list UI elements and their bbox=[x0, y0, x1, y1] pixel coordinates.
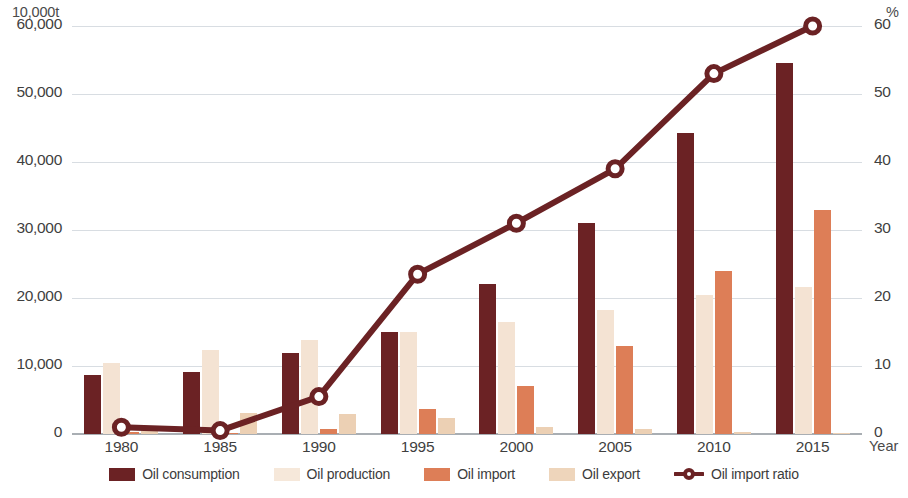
bar-oil-production-1985 bbox=[202, 350, 219, 434]
right-axis-tick-label: 30 bbox=[874, 219, 891, 237]
bar-oil-import-2010 bbox=[715, 271, 732, 434]
ratio-marker-2005 bbox=[608, 162, 622, 176]
plot-area: 010,00020,00030,00040,00050,00060,000 01… bbox=[72, 26, 862, 434]
bar-oil-export-2010 bbox=[734, 432, 751, 434]
bar-oil-export-2005 bbox=[635, 429, 652, 434]
legend-label: Oil production bbox=[307, 466, 391, 482]
legend-swatch-production-icon bbox=[274, 468, 300, 481]
right-axis-tick-label: 10 bbox=[874, 355, 891, 373]
bar-oil-export-1980 bbox=[141, 426, 158, 434]
gridline bbox=[72, 26, 862, 27]
bar-oil-consumption-2010 bbox=[677, 133, 694, 434]
left-axis-tick-label: 20,000 bbox=[16, 287, 62, 305]
bar-oil-import-1990 bbox=[320, 429, 337, 434]
right-axis-tick-label: 20 bbox=[874, 287, 891, 305]
legend-label: Oil import bbox=[457, 466, 515, 482]
bar-oil-consumption-1985 bbox=[183, 372, 200, 434]
x-axis-tick-label: 1985 bbox=[203, 438, 237, 456]
legend-swatch-export-icon bbox=[549, 468, 575, 481]
legend-label: Oil export bbox=[582, 466, 640, 482]
left-axis-tick-label: 40,000 bbox=[16, 151, 62, 169]
bar-oil-import-1995 bbox=[419, 409, 436, 434]
bar-oil-import-2015 bbox=[814, 210, 831, 434]
bar-oil-consumption-2015 bbox=[776, 63, 793, 434]
left-axis-tick-label: 10,000 bbox=[16, 355, 62, 373]
legend-item-ratio[interactable]: Oil import ratio bbox=[674, 466, 799, 482]
bar-oil-import-1985 bbox=[221, 433, 238, 435]
bar-oil-consumption-2000 bbox=[479, 284, 496, 434]
legend-item-production[interactable]: Oil production bbox=[274, 466, 391, 482]
left-axis-tick-label: 0 bbox=[54, 423, 62, 441]
x-axis-tick-label: 1995 bbox=[401, 438, 435, 456]
bar-oil-production-1995 bbox=[400, 332, 417, 434]
bar-oil-import-1980 bbox=[122, 432, 139, 434]
legend-item-consumption[interactable]: Oil consumption bbox=[109, 466, 239, 482]
left-axis-tick-label: 60,000 bbox=[16, 15, 62, 33]
bar-oil-consumption-2005 bbox=[578, 223, 595, 434]
gridline bbox=[72, 298, 862, 299]
legend-swatch-consumption-icon bbox=[109, 468, 135, 481]
legend-label: Oil import ratio bbox=[711, 466, 799, 482]
gridline bbox=[72, 94, 862, 95]
bar-oil-production-2005 bbox=[597, 310, 614, 434]
x-axis-tick-label: 1980 bbox=[105, 438, 139, 456]
legend-line-marker-icon bbox=[674, 467, 704, 481]
x-axis-tick-label: 2015 bbox=[796, 438, 830, 456]
bar-oil-consumption-1990 bbox=[282, 353, 299, 434]
bar-oil-production-2015 bbox=[795, 287, 812, 434]
gridline bbox=[72, 230, 862, 231]
right-axis-tick-label: 60 bbox=[874, 15, 891, 33]
bar-oil-export-1990 bbox=[339, 414, 356, 434]
bar-oil-production-1990 bbox=[301, 340, 318, 434]
legend-label: Oil consumption bbox=[142, 466, 239, 482]
x-axis-tick-label: 2010 bbox=[697, 438, 731, 456]
ratio-marker-2000 bbox=[509, 216, 523, 230]
legend-swatch-import-icon bbox=[424, 468, 450, 481]
bar-oil-export-1995 bbox=[438, 418, 455, 434]
oil-supply-chart: 10,000t % 010,00020,00030,00040,00050,00… bbox=[0, 0, 908, 498]
bar-oil-production-2000 bbox=[498, 322, 515, 434]
bar-oil-production-2010 bbox=[696, 295, 713, 434]
legend-item-export[interactable]: Oil export bbox=[549, 466, 640, 482]
ratio-marker-1995 bbox=[411, 267, 425, 281]
x-axis-tick-label: 2000 bbox=[500, 438, 534, 456]
bar-oil-export-1985 bbox=[240, 413, 257, 434]
ratio-marker-2010 bbox=[707, 67, 721, 81]
bar-oil-consumption-1995 bbox=[381, 332, 398, 434]
legend-item-import[interactable]: Oil import bbox=[424, 466, 515, 482]
bar-oil-import-2005 bbox=[616, 346, 633, 434]
chart-legend: Oil consumptionOil productionOil importO… bbox=[0, 466, 908, 482]
right-axis-tick-label: 50 bbox=[874, 83, 891, 101]
x-axis-tick-label: 1990 bbox=[302, 438, 336, 456]
bar-oil-production-1980 bbox=[103, 363, 120, 434]
bar-oil-export-2000 bbox=[536, 427, 553, 434]
left-axis-tick-label: 30,000 bbox=[16, 219, 62, 237]
right-axis-tick-label: 40 bbox=[874, 151, 891, 169]
gridline bbox=[72, 366, 862, 367]
x-axis-title: Year bbox=[869, 438, 898, 454]
bar-oil-export-2015 bbox=[833, 433, 850, 435]
gridline bbox=[72, 162, 862, 163]
x-axis-tick-label: 2005 bbox=[598, 438, 632, 456]
bar-oil-import-2000 bbox=[517, 386, 534, 434]
bar-oil-consumption-1980 bbox=[84, 375, 101, 434]
left-axis-tick-label: 50,000 bbox=[16, 83, 62, 101]
